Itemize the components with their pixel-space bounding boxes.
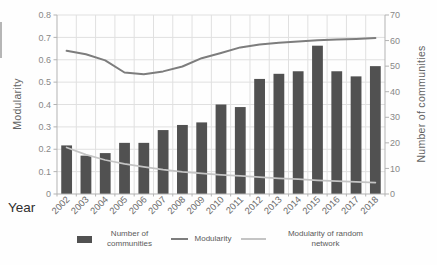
x-tick-2010: 2010 <box>204 194 226 216</box>
bar-2010 <box>216 105 227 195</box>
left-axis-title: Modularity <box>11 78 23 129</box>
legend-item-random-network: Modularity of random network <box>241 229 377 250</box>
bar-2005 <box>119 143 130 194</box>
y-tick-left-0.2: 0.2 <box>38 144 51 154</box>
bar-2018 <box>370 66 381 194</box>
bar-2008 <box>177 125 188 194</box>
x-tick-2007: 2007 <box>146 194 168 216</box>
right-axis-title: Number of communities <box>415 45 427 162</box>
bar-2016 <box>331 71 342 194</box>
legend: Number of communities Modularity Modular… <box>17 229 437 250</box>
y-tick-left-0.1: 0.1 <box>38 167 51 177</box>
y-tick-right-40: 40 <box>390 87 400 97</box>
bar-2017 <box>351 76 362 194</box>
bar-2015 <box>312 46 323 194</box>
x-tick-2012: 2012 <box>243 194 265 216</box>
bar-2009 <box>196 122 207 194</box>
y-tick-right-60: 60 <box>390 36 400 46</box>
bar-2007 <box>158 130 169 194</box>
x-tick-2011: 2011 <box>224 194 245 215</box>
scan-artifact <box>0 22 2 58</box>
bar-2002 <box>61 145 72 194</box>
y-tick-left-0.7: 0.7 <box>38 33 51 43</box>
x-tick-2014: 2014 <box>281 194 303 216</box>
bar-2003 <box>81 156 92 194</box>
legend-item-modularity: Modularity <box>171 234 232 244</box>
y-tick-right-0: 0 <box>390 189 395 199</box>
y-tick-left-0.5: 0.5 <box>38 77 51 87</box>
bar-2011 <box>235 107 246 194</box>
line-swatch-icon <box>171 238 188 240</box>
series-line-modularity <box>67 38 376 74</box>
x-tick-2006: 2006 <box>127 194 149 216</box>
y-tick-left-0.6: 0.6 <box>38 55 51 65</box>
legend-label-communities: Number of communities <box>99 229 161 250</box>
y-tick-right-50: 50 <box>390 61 400 71</box>
y-tick-right-70: 70 <box>390 10 400 20</box>
x-tick-2003: 2003 <box>69 194 91 216</box>
y-tick-left-0.8: 0.8 <box>38 10 51 20</box>
x-tick-2017: 2017 <box>339 194 361 216</box>
y-tick-right-30: 30 <box>390 112 400 122</box>
bar-2006 <box>138 143 149 194</box>
x-tick-2018: 2018 <box>359 194 381 216</box>
light-line-swatch-icon <box>241 238 266 240</box>
x-tick-2016: 2016 <box>320 194 342 216</box>
x-tick-2002: 2002 <box>50 194 72 216</box>
legend-item-communities: Number of communities <box>77 229 161 250</box>
bar-2014 <box>293 71 304 194</box>
bar-swatch-icon <box>77 236 92 243</box>
x-tick-2015: 2015 <box>301 194 323 216</box>
x-tick-2009: 2009 <box>185 194 207 216</box>
y-tick-left-0.4: 0.4 <box>38 100 51 110</box>
chart-figure: 0.80.70.60.50.40.30.20.10706050403020100… <box>0 0 437 265</box>
y-tick-left-0.3: 0.3 <box>38 122 51 132</box>
plot-area: 0.80.70.60.50.40.30.20.10706050403020100… <box>0 0 437 265</box>
legend-label-modularity: Modularity <box>195 234 232 244</box>
x-tick-2004: 2004 <box>88 194 110 216</box>
y-tick-right-10: 10 <box>390 164 400 174</box>
legend-label-random-network: Modularity of random network <box>273 229 377 250</box>
x-tick-2005: 2005 <box>108 194 130 216</box>
x-tick-2008: 2008 <box>166 194 188 216</box>
y-tick-left-0: 0 <box>46 189 51 199</box>
y-tick-right-20: 20 <box>390 138 400 148</box>
bars-group <box>61 46 381 194</box>
x-tick-2013: 2013 <box>262 194 284 216</box>
bar-2013 <box>273 74 284 194</box>
x-axis-title: Year <box>8 200 35 215</box>
